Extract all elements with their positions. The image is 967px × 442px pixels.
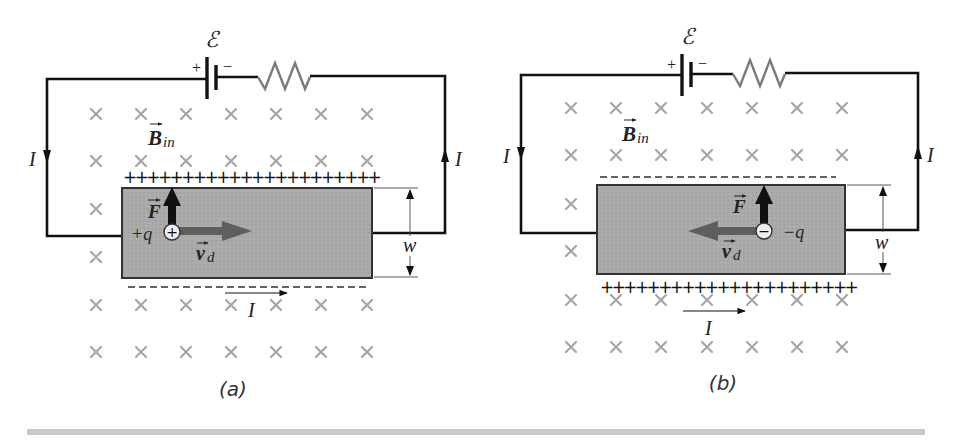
current-arrow-up-icon xyxy=(914,145,922,159)
battery-minus-label: − xyxy=(222,58,233,75)
svg-text:in: in xyxy=(163,134,175,150)
current-label-right: I xyxy=(926,144,935,166)
panel-a: + − ℰ I I xyxy=(28,27,463,401)
bottom-positive-charges: ++++++++++++++++++++++ xyxy=(600,277,858,297)
caption-b: (b) xyxy=(709,371,737,395)
svg-text:d: d xyxy=(733,247,741,263)
current-arrow-down-icon xyxy=(517,147,525,161)
current-label-left: I xyxy=(502,145,511,167)
battery-icon xyxy=(207,57,216,99)
svg-text:w: w xyxy=(403,234,417,256)
battery-plus-label: + xyxy=(191,59,202,76)
battery-minus-label: − xyxy=(697,55,708,72)
svg-text:w: w xyxy=(875,231,889,253)
current-label-bottom-b: I xyxy=(704,317,713,339)
svg-text:F: F xyxy=(732,196,746,217)
top-positive-charges: ++++++++++++++++++++++ xyxy=(123,167,381,187)
hall-effect-figure: + − ℰ I I xyxy=(0,0,967,442)
current-arrow-down-icon xyxy=(43,150,51,164)
charge-label-minus-q: −q xyxy=(783,222,804,242)
svg-text:v: v xyxy=(196,242,206,264)
svg-text:B: B xyxy=(147,126,162,150)
negative-charge-symbol: − xyxy=(758,223,770,239)
current-label-left: I xyxy=(28,148,37,170)
current-label-right: I xyxy=(454,148,463,170)
force-label: F xyxy=(732,196,746,217)
panel-b: + − ℰ I I B xyxy=(502,24,935,395)
svg-text:F: F xyxy=(147,201,161,222)
battery-plus-label: + xyxy=(666,56,677,73)
svg-text:in: in xyxy=(637,130,649,146)
svg-text:B: B xyxy=(621,122,636,146)
footer-divider xyxy=(27,429,925,435)
field-label-b-in: B in xyxy=(621,120,649,146)
resistor-icon xyxy=(258,63,310,89)
resistor-icon xyxy=(733,60,785,86)
caption-a: (a) xyxy=(219,377,247,401)
charge-label-plus-q: +q xyxy=(131,224,152,244)
force-label: F xyxy=(147,200,161,222)
emf-label: ℰ xyxy=(681,24,697,49)
svg-text:d: d xyxy=(207,249,215,265)
field-label-b-in: B in xyxy=(147,124,175,150)
emf-label: ℰ xyxy=(205,27,221,52)
positive-charge-symbol: + xyxy=(166,224,178,240)
svg-text:v: v xyxy=(722,240,732,262)
current-arrow-up-icon xyxy=(441,148,449,162)
current-label-bottom-a: I xyxy=(247,299,256,321)
battery-icon xyxy=(682,54,691,96)
